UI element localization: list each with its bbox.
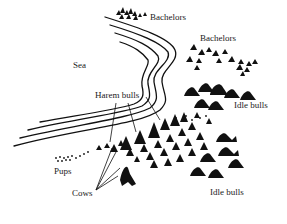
shoreline-lines <box>14 17 176 146</box>
label-idle-bulls-bottom: Idle bulls <box>210 188 244 197</box>
pups-cluster <box>55 151 89 162</box>
label-bachelors-top: Bachelors <box>150 13 186 22</box>
bachelors-right-cluster <box>186 44 258 76</box>
label-pups: Pups <box>54 167 72 176</box>
label-sea: Sea <box>73 61 86 70</box>
bachelors-top-cluster <box>116 7 147 20</box>
label-harem-bulls: Harem bulls <box>95 91 139 100</box>
label-bachelors-right: Bachelors <box>200 34 236 43</box>
label-cows: Cows <box>72 189 93 198</box>
seal-colony-diagram: Sea Bachelors Bachelors Harem bulls Idle… <box>0 0 287 224</box>
label-idle-bulls-right: Idle bulls <box>234 101 268 110</box>
